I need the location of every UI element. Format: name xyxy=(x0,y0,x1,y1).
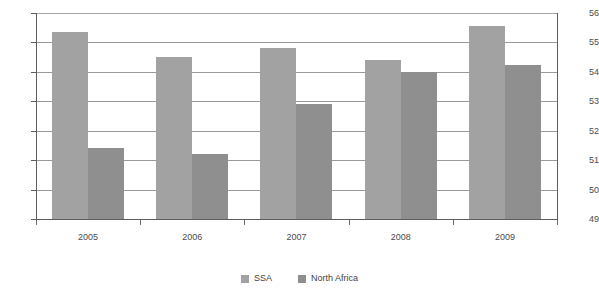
bar-ssa-2009 xyxy=(469,26,505,219)
x-tick-mark xyxy=(244,220,245,225)
bar-group xyxy=(244,13,348,219)
y-tick-label: 55 xyxy=(569,38,599,47)
y-tick-label: 51 xyxy=(569,156,599,165)
x-tick-mark xyxy=(557,220,558,225)
x-tick-mark xyxy=(140,220,141,225)
y-tick-label: 53 xyxy=(569,97,599,106)
chart-legend: SSANorth Africa xyxy=(0,274,599,283)
x-tick-label-2007: 2007 xyxy=(244,232,348,242)
x-tick-label-2005: 2005 xyxy=(36,232,140,242)
bar-group xyxy=(36,13,140,219)
y-tick-label: 49 xyxy=(569,215,599,224)
x-axis-line xyxy=(36,219,558,220)
bar-group xyxy=(349,13,453,219)
bar-chart: 5655545352515049 20052006200720082009 SS… xyxy=(0,0,599,295)
bar-north-africa-2009 xyxy=(505,65,541,220)
x-tick-label-2008: 2008 xyxy=(349,232,453,242)
bar-north-africa-2006 xyxy=(192,154,228,219)
plot-frame-right xyxy=(557,13,558,220)
bar-ssa-2007 xyxy=(260,48,296,219)
bar-ssa-2008 xyxy=(365,60,401,219)
y-tick-label: 54 xyxy=(569,68,599,77)
legend-item-ssa[interactable]: SSA xyxy=(241,274,272,283)
x-tick-mark xyxy=(36,220,37,225)
x-tick-mark xyxy=(453,220,454,225)
legend-item-north-africa[interactable]: North Africa xyxy=(298,274,358,283)
y-tick-label: 50 xyxy=(569,186,599,195)
legend-label: SSA xyxy=(254,274,272,283)
legend-swatch-icon xyxy=(241,275,249,283)
bar-north-africa-2005 xyxy=(88,148,124,219)
y-tick-label: 56 xyxy=(569,9,599,18)
bar-group xyxy=(453,13,557,219)
x-tick-label-2006: 2006 xyxy=(140,232,244,242)
bar-ssa-2006 xyxy=(156,57,192,219)
y-tick-label: 52 xyxy=(569,127,599,136)
legend-label: North Africa xyxy=(311,274,358,283)
bar-group xyxy=(140,13,244,219)
x-tick-mark xyxy=(349,220,350,225)
legend-swatch-icon xyxy=(298,275,306,283)
x-tick-label-2009: 2009 xyxy=(453,232,557,242)
bar-north-africa-2007 xyxy=(296,104,332,219)
bar-north-africa-2008 xyxy=(401,72,437,219)
bar-ssa-2005 xyxy=(52,32,88,219)
